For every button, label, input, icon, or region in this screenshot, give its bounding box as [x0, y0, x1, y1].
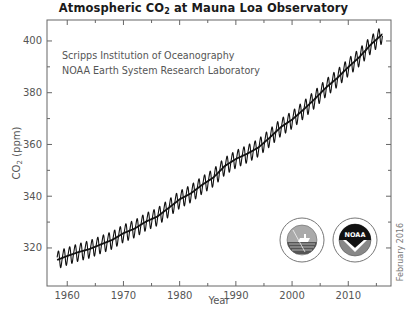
y-tick-label: 380	[23, 87, 42, 98]
x-tick-label: 2010	[336, 290, 361, 301]
x-tick-label: 1970	[111, 290, 136, 301]
credit-scripps: Scripps Institution of Oceanography	[62, 50, 235, 61]
x-tick-label: 1980	[167, 290, 192, 301]
y-tick-label: 360	[23, 139, 42, 150]
x-tick-label: 2000	[279, 290, 304, 301]
x-tick-label: 1960	[55, 290, 80, 301]
noaa-logo: NOAA	[333, 218, 377, 262]
y-tick-label: 340	[23, 191, 42, 202]
chart-plot: Scripps Institution of Oceanography NOAA…	[0, 0, 407, 317]
y-tick-label: 400	[23, 35, 42, 46]
y-axis-title: CO2 (ppm)	[11, 127, 24, 180]
x-tick-label: 1990	[223, 290, 248, 301]
y-tick-label: 320	[23, 242, 42, 253]
date-stamp: February 2016	[396, 223, 405, 281]
noaa-logo-text: NOAA	[345, 231, 366, 239]
scripps-logo	[280, 218, 324, 262]
credit-noaa: NOAA Earth System Research Laboratory	[62, 65, 260, 76]
